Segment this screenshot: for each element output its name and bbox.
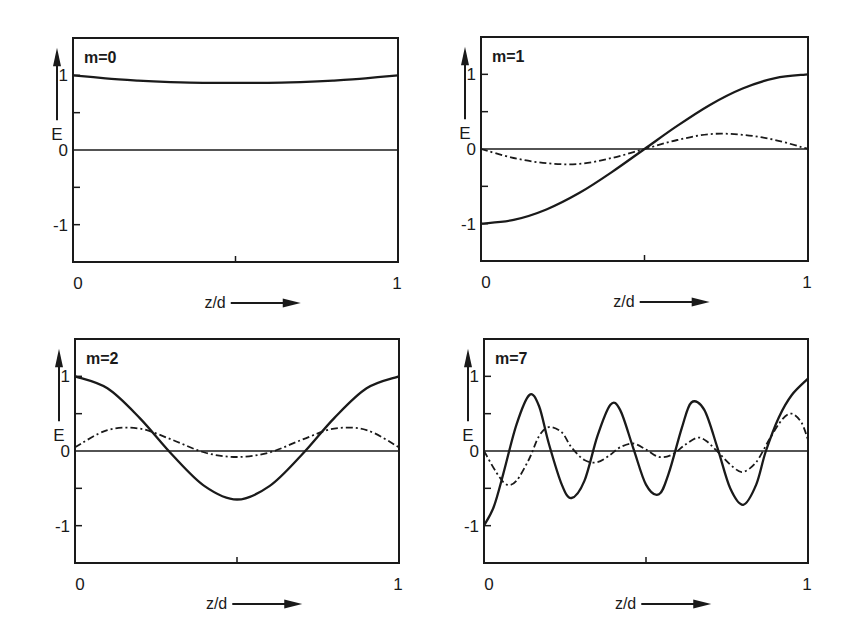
panel-title: m=1 <box>492 48 525 65</box>
figure-canvas: 10-101z/dEm=010-101z/dEm=110-101z/dEm=21… <box>0 0 845 637</box>
y-tick-label: 0 <box>59 141 68 160</box>
y-tick-label: 0 <box>470 442 479 461</box>
x-tick-label: 1 <box>393 575 402 594</box>
panel-m-0: 10-101z/dEm=0 <box>51 38 401 311</box>
y-tick-label: 1 <box>59 66 68 85</box>
dashed-curve <box>75 428 399 457</box>
y-tick-label: -1 <box>464 517 479 536</box>
panel-title: m=2 <box>86 350 119 367</box>
panel-title: m=7 <box>495 350 528 367</box>
x-tick-label: 0 <box>481 273 490 292</box>
y-axis-label: E <box>462 426 473 445</box>
y-arrowhead-icon <box>464 349 472 368</box>
y-tick-label: -1 <box>53 216 68 235</box>
y-arrowhead-icon <box>55 349 63 368</box>
x-tick-label: 1 <box>392 274 401 293</box>
x-arrowhead-icon <box>283 299 301 308</box>
y-tick-label: -1 <box>461 215 476 234</box>
y-axis-label: E <box>51 125 62 144</box>
x-tick-label: 0 <box>73 274 82 293</box>
y-tick-label: 1 <box>470 367 479 386</box>
y-tick-label: 1 <box>467 65 476 84</box>
y-arrowhead-icon <box>461 47 469 66</box>
panel-m-7: 10-101z/dEm=7 <box>462 339 811 612</box>
x-tick-label: 0 <box>484 575 493 594</box>
panel-title: m=0 <box>84 49 117 66</box>
x-tick-label: 0 <box>75 575 84 594</box>
y-axis-label: E <box>53 426 64 445</box>
y-tick-label: 0 <box>61 442 70 461</box>
solid-curve <box>75 376 399 499</box>
x-axis-label: z/d <box>204 294 225 311</box>
x-tick-label: 1 <box>802 575 811 594</box>
y-tick-label: 0 <box>467 140 476 159</box>
y-axis-label: E <box>459 124 470 143</box>
x-arrowhead-icon <box>693 600 711 609</box>
y-tick-label: 1 <box>61 367 70 386</box>
y-tick-label: -1 <box>55 517 70 536</box>
x-axis-label: z/d <box>206 595 227 612</box>
x-axis-label: z/d <box>613 293 634 310</box>
y-arrowhead-icon <box>53 48 61 67</box>
x-arrowhead-icon <box>692 298 710 307</box>
x-tick-label: 1 <box>802 273 811 292</box>
x-axis-label: z/d <box>615 595 636 612</box>
panel-m-2: 10-101z/dEm=2 <box>53 339 402 612</box>
solid-curve <box>73 75 398 83</box>
panel-m-1: 10-101z/dEm=1 <box>459 37 811 310</box>
x-arrowhead-icon <box>284 600 302 609</box>
